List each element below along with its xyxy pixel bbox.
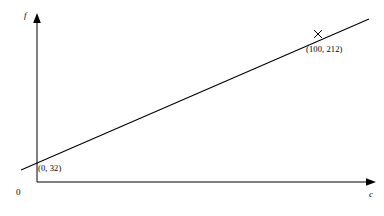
y-axis-arrowhead <box>33 13 41 23</box>
point-label-marked: (100, 212) <box>306 45 342 54</box>
cross-marker-point <box>314 30 322 38</box>
x-axis-label: c <box>369 190 373 199</box>
figure-canvas: f c 0 (0, 32) (100, 212) <box>0 0 384 216</box>
y-axis-label: f <box>24 11 27 20</box>
x-axis-arrowhead <box>366 178 376 186</box>
data-line-series-0 <box>21 19 369 170</box>
origin-label: 0 <box>16 188 21 197</box>
point-label-intercept: (0, 32) <box>38 164 61 173</box>
plot-area <box>0 0 384 216</box>
